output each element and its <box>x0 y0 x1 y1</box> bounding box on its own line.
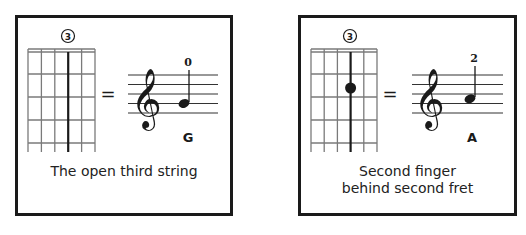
string-number-badge: 3 <box>62 30 75 43</box>
svg-text:3: 3 <box>347 32 353 42</box>
left-diagram-graphics: 3 = 𝄞 0 G 3 <box>0 0 526 235</box>
fret-number-label: 0 <box>184 56 192 69</box>
note-name-label: G <box>183 130 194 145</box>
fretboard-diagram <box>311 49 377 152</box>
equals-sign: = <box>100 83 115 104</box>
string-number-badge: 3 <box>344 30 357 43</box>
finger-dot-fret-2 <box>345 83 356 94</box>
equals-sign: = <box>382 83 397 104</box>
fret-number-label: 2 <box>470 52 478 65</box>
fretboard-diagram <box>28 49 95 152</box>
note-name-label: A <box>467 130 477 145</box>
note-g-quarter <box>177 70 191 109</box>
svg-text:3: 3 <box>65 32 71 42</box>
note-a-quarter <box>463 66 477 105</box>
treble-clef-icon: 𝄞 <box>131 68 162 131</box>
treble-clef-icon: 𝄞 <box>414 68 445 131</box>
